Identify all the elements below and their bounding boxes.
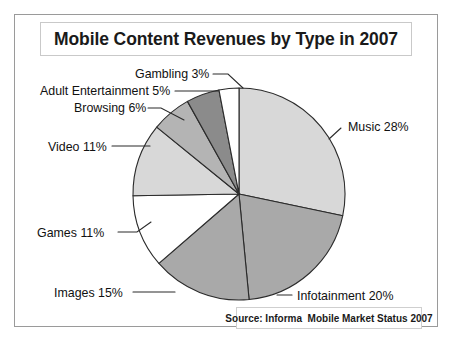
slice-label-infotainment: Infotainment 20% <box>297 289 393 303</box>
source-caption: Source: Informa Mobile Market Status 200… <box>225 313 432 324</box>
figure-canvas: Mobile Content Revenues by Type in 2007 … <box>0 0 462 355</box>
slice-label-video: Video 11% <box>48 140 107 154</box>
slice-label-browsing: Browsing 6% <box>74 101 146 115</box>
leader-line-music <box>329 128 341 139</box>
slice-label-music: Music 28% <box>348 120 409 134</box>
pie-slices <box>133 88 345 300</box>
pie-slice-music <box>239 88 345 216</box>
slice-label-gambling: Gambling 3% <box>135 67 209 81</box>
leader-line-gambling <box>213 74 243 88</box>
slice-label-images: Images 15% <box>54 286 123 300</box>
slice-label-games: Games 11% <box>37 226 104 240</box>
pie-chart: Music 28%Infotainment 20%Images 15%Games… <box>0 0 462 355</box>
slice-label-adult-entertainment: Adult Entertainment 5% <box>40 84 170 98</box>
source-box: Source: Informa Mobile Market Status 200… <box>236 307 422 329</box>
